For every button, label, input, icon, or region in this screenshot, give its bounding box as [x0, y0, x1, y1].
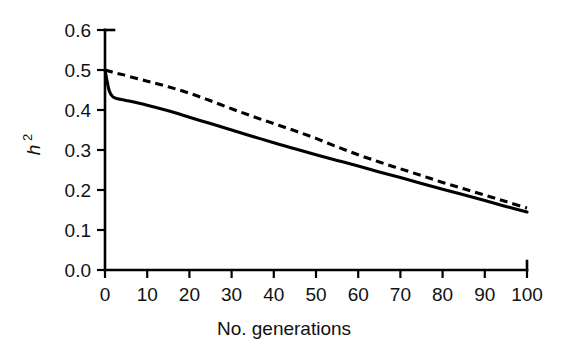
y-axis-title-base: h — [23, 145, 44, 156]
x-tick-label: 10 — [137, 284, 158, 305]
y-tick-label: 0.0 — [65, 260, 91, 281]
x-tick-label: 30 — [221, 284, 242, 305]
chart-figure: 0.00.10.20.30.40.50.6 010203040506070809… — [0, 0, 569, 355]
x-tick-label: 50 — [305, 284, 326, 305]
y-tick-label: 0.4 — [65, 100, 92, 121]
x-tick-label: 60 — [348, 284, 369, 305]
y-tick-label: 0.1 — [65, 220, 91, 241]
x-axis-title: No. generations — [217, 318, 351, 339]
y-tick-label: 0.2 — [65, 180, 91, 201]
y-tick-label: 0.6 — [65, 20, 91, 41]
x-tick-label: 100 — [511, 284, 543, 305]
y-tick-label: 0.3 — [65, 140, 91, 161]
y-axis-title-superscript: 2 — [20, 134, 35, 141]
x-tick-label: 0 — [100, 284, 111, 305]
chart-svg: 0.00.10.20.30.40.50.6 010203040506070809… — [0, 0, 569, 355]
x-tick-label: 40 — [263, 284, 284, 305]
x-tick-label: 90 — [474, 284, 495, 305]
y-tick-label: 0.5 — [65, 60, 91, 81]
x-tick-label: 20 — [179, 284, 200, 305]
x-tick-label: 70 — [390, 284, 411, 305]
x-tick-label: 80 — [432, 284, 453, 305]
